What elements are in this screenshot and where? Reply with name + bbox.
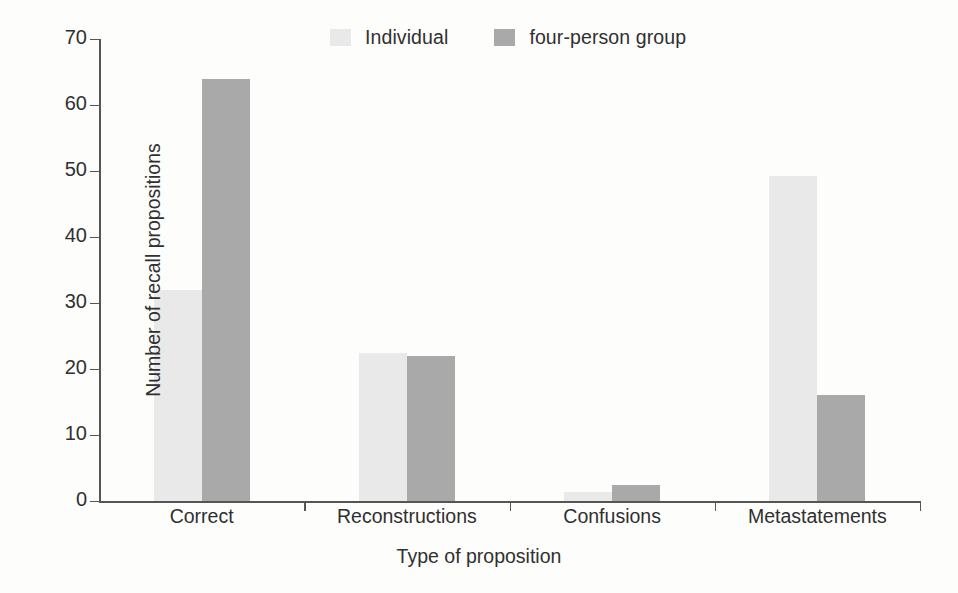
y-tick-mark xyxy=(90,105,99,106)
y-tick-label: 60 xyxy=(65,92,87,115)
y-tick-label: 30 xyxy=(65,290,87,313)
bar-reconstructions-four-person-group xyxy=(407,356,455,501)
bar-confusions-four-person-group xyxy=(612,485,660,502)
y-tick-label: 10 xyxy=(65,422,87,445)
y-tick-label: 40 xyxy=(65,224,87,247)
y-tick-label: 20 xyxy=(65,356,87,379)
x-tick-mark xyxy=(715,501,716,511)
y-tick-mark xyxy=(90,237,99,238)
x-axis-label-correct: Correct xyxy=(170,505,234,528)
x-axis-label-metastatements: Metastatements xyxy=(748,505,887,528)
y-tick-mark xyxy=(90,435,99,436)
bar-metastatements-individual xyxy=(769,176,817,501)
y-tick-label: 70 xyxy=(65,26,87,49)
bar-confusions-individual xyxy=(564,492,612,501)
bar-reconstructions-individual xyxy=(359,353,407,502)
bar-correct-four-person-group xyxy=(202,79,250,501)
plot-area: 010203040506070 Number of recall proposi… xyxy=(99,39,920,501)
x-axis-title: Type of proposition xyxy=(0,545,958,568)
bar-chart-figure: Individual four-person group 01020304050… xyxy=(0,0,958,593)
bar-series-container xyxy=(99,39,920,501)
y-tick-label: 50 xyxy=(65,158,87,181)
y-tick-mark xyxy=(90,171,99,172)
x-tick-mark xyxy=(920,501,921,511)
x-tick-mark xyxy=(304,501,305,511)
x-tick-mark xyxy=(510,501,511,511)
y-tick-mark xyxy=(90,369,99,370)
y-axis-title: Number of recall propositions xyxy=(142,143,165,397)
bar-metastatements-four-person-group xyxy=(817,395,865,501)
x-axis-label-reconstructions: Reconstructions xyxy=(337,505,477,528)
y-tick-mark xyxy=(90,501,99,502)
x-axis-label-confusions: Confusions xyxy=(563,505,661,528)
y-tick-mark xyxy=(90,303,99,304)
y-tick-label: 0 xyxy=(76,488,87,511)
y-tick-mark xyxy=(90,39,99,40)
